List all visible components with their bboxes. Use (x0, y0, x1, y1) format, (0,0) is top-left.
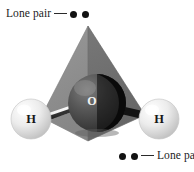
lone-pair-annotation-top: Lone pair (6, 7, 89, 20)
lone-pair-label-bottom: Lone pair (157, 149, 194, 161)
electron-dot (82, 11, 89, 18)
electron-dot (119, 153, 126, 160)
molecule-scene (0, 0, 194, 172)
leader-dash-top (54, 13, 67, 14)
lone-pair-label-top: Lone pair (6, 7, 51, 19)
oxygen-cast-shadow (75, 129, 119, 137)
lone-pair-annotation-bottom: Lone pair (119, 149, 194, 162)
atom-hydrogen-right (139, 99, 179, 139)
lone-pair-dots-bottom (119, 150, 138, 162)
electron-dot (70, 11, 77, 18)
electron-dot (131, 153, 138, 160)
leader-dash-bottom (141, 155, 154, 156)
atom-hydrogen-left (11, 99, 51, 139)
molecule-figure: O H H Lone pair Lone pair (0, 0, 194, 172)
lone-pair-dots-top (70, 8, 89, 20)
